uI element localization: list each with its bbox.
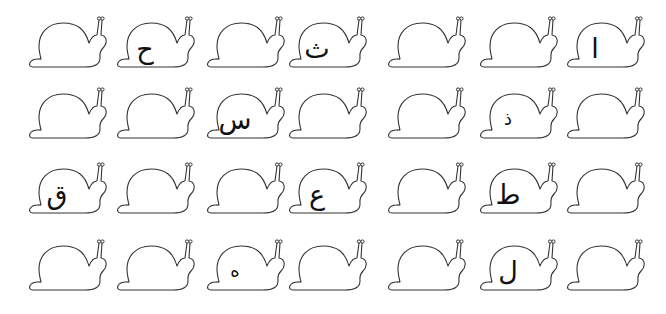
snail-cell [27, 86, 111, 144]
snail-cell: ح [115, 15, 199, 73]
arabic-letter [394, 254, 438, 288]
snail-cell [386, 86, 470, 144]
snail-cell [27, 238, 111, 296]
snail-cell: ه [205, 238, 289, 296]
arabic-letter [394, 177, 438, 211]
arabic-letter: ق [35, 177, 79, 211]
arabic-letter: ع [295, 177, 339, 211]
arabic-letter [573, 254, 617, 288]
snail-cell: ع [287, 161, 371, 219]
arabic-letter: ذ [486, 102, 530, 136]
snail-cell: ا [565, 15, 649, 73]
snail-cell [386, 238, 470, 296]
arabic-letter [123, 177, 167, 211]
arabic-letter [573, 177, 617, 211]
arabic-letter: ث [295, 31, 339, 65]
snail-cell [565, 238, 649, 296]
snail-cell [205, 161, 289, 219]
snail-cell [478, 15, 562, 73]
snail-cell [115, 238, 199, 296]
arabic-letter [394, 102, 438, 136]
arabic-letter [123, 254, 167, 288]
arabic-letter: ط [486, 177, 530, 211]
arabic-letter [35, 31, 79, 65]
snail-cell [287, 238, 371, 296]
snail-cell [386, 15, 470, 73]
arabic-letter [35, 102, 79, 136]
arabic-letter: ح [123, 31, 167, 65]
snail-cell [386, 161, 470, 219]
snail-cell: ث [287, 15, 371, 73]
snail-cell [115, 161, 199, 219]
arabic-letter: ا [573, 31, 617, 65]
snail-cell [565, 161, 649, 219]
snail-cell [565, 86, 649, 144]
snail-cell [115, 86, 199, 144]
snail-cell: س [205, 86, 289, 144]
snail-cell [287, 86, 371, 144]
snail-cell [205, 15, 289, 73]
arabic-letter [295, 254, 339, 288]
arabic-letter [35, 254, 79, 288]
snail-cell: ط [478, 161, 562, 219]
snail-cell [27, 15, 111, 73]
arabic-letter [213, 31, 257, 65]
arabic-letter [213, 177, 257, 211]
snail-cell: ل [478, 238, 562, 296]
snail-cell: ق [27, 161, 111, 219]
arabic-letter [123, 102, 167, 136]
arabic-letter: س [213, 102, 257, 136]
arabic-letter: ل [486, 254, 530, 288]
arabic-letter [394, 31, 438, 65]
snail-cell: ذ [478, 86, 562, 144]
arabic-letter [486, 31, 530, 65]
arabic-letter [573, 102, 617, 136]
arabic-letter [295, 102, 339, 136]
arabic-letter: ه [213, 254, 257, 288]
snail-letter-worksheet: حثاسذقعطهل [0, 0, 666, 314]
